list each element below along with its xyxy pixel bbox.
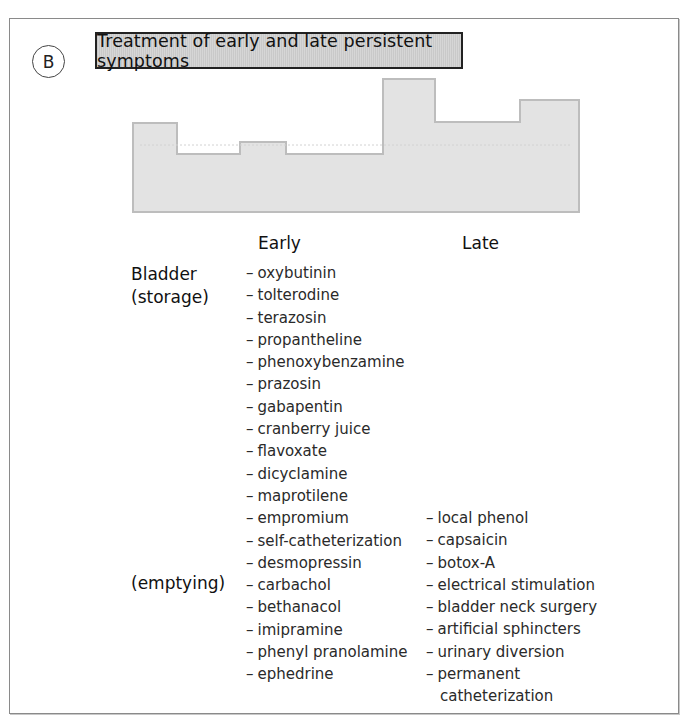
treatment-item: –local phenol bbox=[426, 507, 597, 529]
treatment-label: urinary diversion bbox=[438, 643, 565, 661]
treatment-label: propantheline bbox=[258, 331, 362, 349]
treatment-label: bladder neck surgery bbox=[438, 598, 598, 616]
treatment-label: dicyclamine bbox=[258, 465, 348, 483]
treatment-item: –bladder neck surgery bbox=[426, 596, 597, 618]
treatment-label: ephedrine bbox=[258, 665, 334, 683]
treatment-label: desmopressin bbox=[258, 554, 362, 572]
treatment-item: –gabapentin bbox=[246, 396, 408, 418]
treatment-item: –empromium bbox=[246, 507, 408, 529]
treatment-label-continuation: catheterization bbox=[426, 685, 597, 707]
treatment-item: –electrical stimulation bbox=[426, 574, 597, 596]
dash-bullet: – bbox=[426, 554, 434, 572]
treatment-label: capsaicin bbox=[438, 531, 508, 549]
treatment-item: –ephedrine bbox=[246, 663, 408, 685]
treatment-label: electrical stimulation bbox=[438, 576, 596, 594]
treatment-label: prazosin bbox=[258, 375, 321, 393]
treatment-label: oxybutinin bbox=[258, 264, 337, 282]
treatment-label: botox-A bbox=[438, 554, 496, 572]
treatment-label: tolterodine bbox=[258, 286, 340, 304]
dash-bullet: – bbox=[246, 665, 254, 683]
treatment-label: local phenol bbox=[438, 509, 529, 527]
dash-bullet: – bbox=[426, 665, 434, 683]
treatment-item: –botox-A bbox=[426, 552, 597, 574]
dash-bullet: – bbox=[246, 420, 254, 438]
dash-bullet: – bbox=[246, 331, 254, 349]
treatment-item: –phenyl pranolamine bbox=[246, 641, 408, 663]
treatment-item: –cranberry juice bbox=[246, 418, 408, 440]
dash-bullet: – bbox=[246, 509, 254, 527]
treatment-item: –maprotilene bbox=[246, 485, 408, 507]
treatment-label: terazosin bbox=[258, 309, 327, 327]
early-treatment-list: –oxybutinin–tolterodine–terazosin–propan… bbox=[246, 262, 408, 686]
treatment-item: –dicyclamine bbox=[246, 463, 408, 485]
treatment-label: phenyl pranolamine bbox=[258, 643, 408, 661]
dash-bullet: – bbox=[426, 531, 434, 549]
dash-bullet: – bbox=[246, 309, 254, 327]
treatment-item: –terazosin bbox=[246, 307, 408, 329]
treatment-item: –imipramine bbox=[246, 619, 408, 641]
treatment-item: –artificial sphincters bbox=[426, 618, 597, 640]
treatment-label: maprotilene bbox=[258, 487, 349, 505]
dash-bullet: – bbox=[246, 286, 254, 304]
treatment-label: self-catheterization bbox=[258, 532, 402, 550]
dash-bullet: – bbox=[246, 264, 254, 282]
treatment-label: bethanacol bbox=[258, 598, 342, 616]
row-label-storage: (storage) bbox=[131, 286, 209, 309]
dash-bullet: – bbox=[246, 554, 254, 572]
row-label-emptying: (emptying) bbox=[131, 572, 225, 595]
dash-bullet: – bbox=[426, 643, 434, 661]
treatment-label: permanent bbox=[438, 665, 521, 683]
treatment-item: –capsaicin bbox=[426, 529, 597, 551]
dash-bullet: – bbox=[246, 375, 254, 393]
dash-bullet: – bbox=[246, 487, 254, 505]
treatment-label: phenoxybenzamine bbox=[258, 353, 405, 371]
treatment-item: –self-catheterization bbox=[246, 530, 408, 552]
dash-bullet: – bbox=[426, 576, 434, 594]
dash-bullet: – bbox=[246, 398, 254, 416]
dash-bullet: – bbox=[246, 621, 254, 639]
treatment-label: empromium bbox=[258, 509, 349, 527]
dash-bullet: – bbox=[246, 532, 254, 550]
dash-bullet: – bbox=[246, 643, 254, 661]
treatment-item: –urinary diversion bbox=[426, 641, 597, 663]
row-label-bladder: Bladder bbox=[131, 263, 197, 286]
dash-bullet: – bbox=[246, 353, 254, 371]
treatment-item: –permanentcatheterization bbox=[426, 663, 597, 708]
treatment-item: –tolterodine bbox=[246, 284, 408, 306]
treatment-label: cranberry juice bbox=[258, 420, 371, 438]
late-treatment-list: –local phenol–capsaicin–botox-A–electric… bbox=[426, 507, 597, 708]
dash-bullet: – bbox=[246, 576, 254, 594]
treatment-label: imipramine bbox=[258, 621, 343, 639]
column-header-early: Early bbox=[258, 233, 301, 253]
treatment-label: gabapentin bbox=[258, 398, 343, 416]
treatment-item: –flavoxate bbox=[246, 440, 408, 462]
treatment-label: artificial sphincters bbox=[438, 620, 581, 638]
treatment-item: –propantheline bbox=[246, 329, 408, 351]
dash-bullet: – bbox=[426, 620, 434, 638]
treatment-item: –carbachol bbox=[246, 574, 408, 596]
treatment-item: –phenoxybenzamine bbox=[246, 351, 408, 373]
treatment-item: –oxybutinin bbox=[246, 262, 408, 284]
symptom-step-profile bbox=[0, 0, 683, 230]
treatment-item: –prazosin bbox=[246, 373, 408, 395]
treatment-item: –desmopressin bbox=[246, 552, 408, 574]
treatment-label: carbachol bbox=[258, 576, 331, 594]
treatment-label: flavoxate bbox=[258, 442, 327, 460]
treatment-item: –bethanacol bbox=[246, 596, 408, 618]
dash-bullet: – bbox=[246, 442, 254, 460]
dash-bullet: – bbox=[426, 598, 434, 616]
column-header-late: Late bbox=[462, 233, 499, 253]
dash-bullet: – bbox=[246, 465, 254, 483]
dash-bullet: – bbox=[246, 598, 254, 616]
dash-bullet: – bbox=[426, 509, 434, 527]
